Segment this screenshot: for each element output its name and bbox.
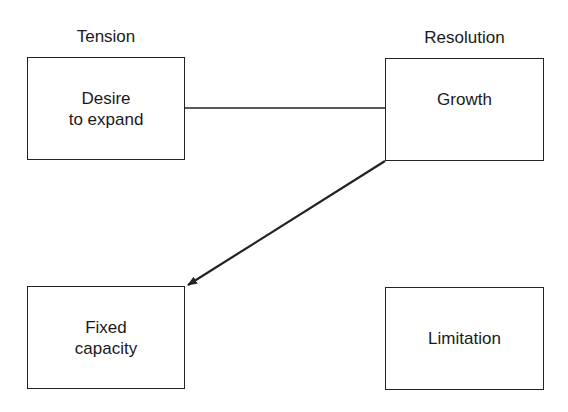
node-label: Growth xyxy=(437,89,492,110)
node-label: Limitation xyxy=(428,328,501,349)
tension-heading: Tension xyxy=(27,27,185,47)
resolution-heading: Resolution xyxy=(385,28,544,48)
node-fixed-capacity: Fixed capacity xyxy=(27,286,185,389)
node-label: Desire to expand xyxy=(69,88,144,130)
node-limitation: Limitation xyxy=(385,287,544,390)
node-desire-to-expand: Desire to expand xyxy=(27,57,185,160)
node-label: Fixed capacity xyxy=(75,317,137,359)
node-growth: Growth xyxy=(385,58,544,161)
edge-growth-fixed-arrow xyxy=(188,161,385,285)
